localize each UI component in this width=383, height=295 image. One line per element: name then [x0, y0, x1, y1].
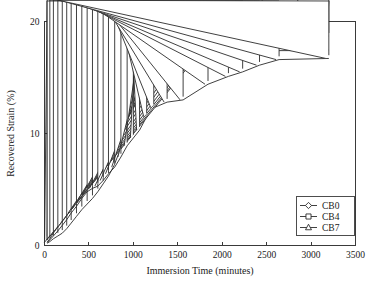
x-axis: 0500100015002000250030003500Immersion Ti… [42, 242, 365, 277]
chart-figure: 0500100015002000250030003500Immersion Ti… [0, 0, 383, 295]
legend-marker-square-icon [306, 214, 311, 219]
series-cb7 [44, 0, 329, 242]
legend-label-cb4: CB4 [322, 212, 340, 222]
x-tick-label: 3500 [346, 250, 365, 260]
x-tick-label: 1000 [124, 250, 143, 260]
y-tick-label: 20 [30, 17, 40, 27]
x-tick-label: 2000 [213, 250, 232, 260]
x-tick-label: 0 [42, 250, 47, 260]
x-tick-label: 1500 [168, 250, 187, 260]
y-tick-label: 0 [35, 241, 40, 251]
x-tick-label: 2500 [257, 250, 276, 260]
legend-label-cb0: CB0 [322, 201, 340, 211]
y-axis-title: Recovered Strain (%) [5, 90, 17, 177]
legend[interactable]: CB0CB4CB7 [296, 196, 354, 235]
y-axis: 01020Recovered Strain (%) [5, 17, 49, 251]
x-tick-label: 3000 [302, 250, 321, 260]
x-axis-title: Immersion Time (minutes) [146, 265, 253, 277]
legend-label-cb7: CB7 [322, 223, 340, 233]
x-tick-label: 500 [82, 250, 97, 260]
y-tick-label: 10 [30, 129, 40, 139]
